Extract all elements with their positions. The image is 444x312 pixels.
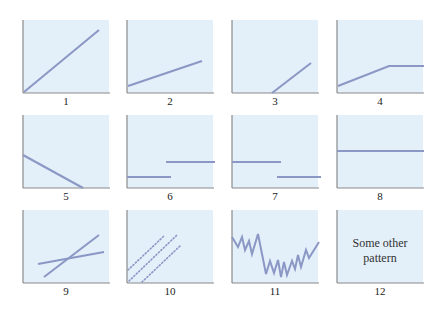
panel-1 [23, 20, 110, 93]
panel-7 [232, 115, 321, 188]
panel-8-label: 8 [337, 190, 423, 202]
panel-6-label: 6 [127, 190, 213, 202]
panel-10 [127, 210, 214, 283]
panel-12-note-line1: Some other [337, 236, 423, 251]
panel-9-label: 9 [23, 285, 109, 297]
panel-6 [127, 115, 215, 188]
panel-7-label: 7 [232, 190, 318, 202]
panel-10-label: 10 [127, 285, 213, 297]
panel-11 [232, 210, 319, 283]
panel-5 [23, 115, 110, 188]
panel-1-label: 1 [23, 95, 109, 107]
panel-12-label: 12 [337, 285, 423, 297]
panel-2 [127, 20, 214, 93]
panel-4 [337, 20, 424, 93]
panel-2-label: 2 [127, 95, 213, 107]
panel-8 [337, 115, 424, 188]
panel-3-label: 3 [232, 95, 318, 107]
panel-4-label: 4 [337, 95, 423, 107]
panel-9 [23, 210, 110, 283]
panel-12-note: Some other pattern [337, 236, 423, 266]
panel-11-label: 11 [232, 285, 318, 297]
panel-12-note-line2: pattern [337, 251, 423, 266]
panel-3 [232, 20, 319, 93]
panel-5-label: 5 [23, 190, 109, 202]
